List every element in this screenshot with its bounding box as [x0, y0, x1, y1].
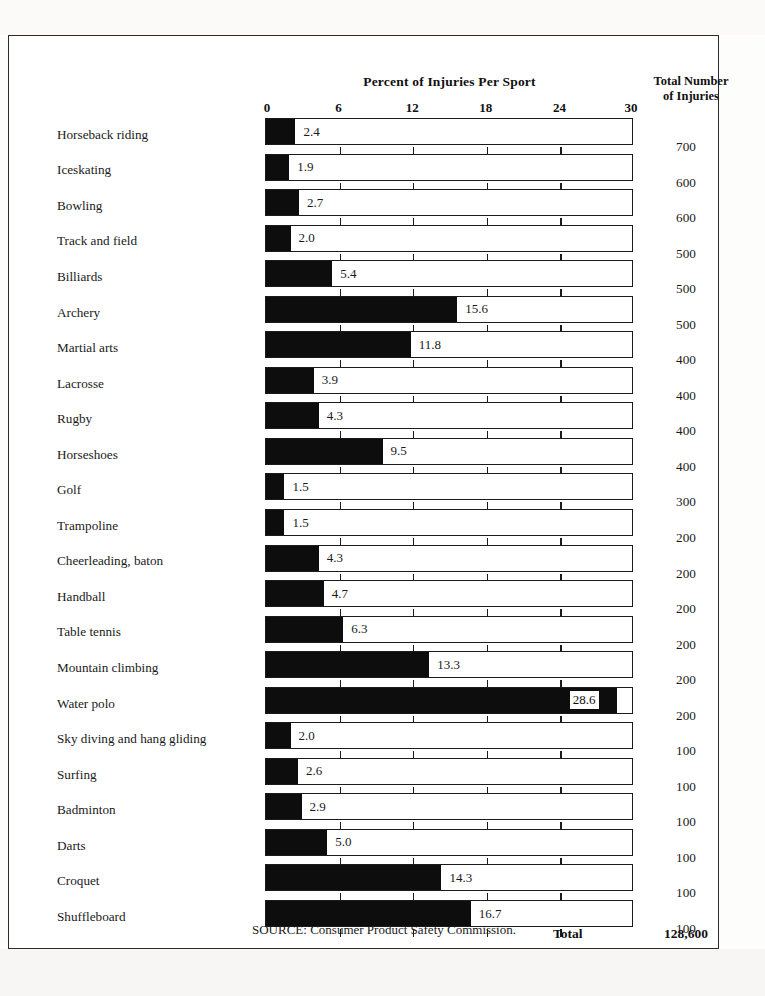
bar-track: 1.5 [265, 509, 633, 536]
bar-fill [266, 226, 291, 251]
bar-value-label: 2.9 [310, 799, 326, 815]
bar-track: 4.7 [265, 580, 633, 607]
bar-fill [266, 439, 383, 464]
category-label: Lacrosse [57, 376, 104, 392]
axis-tick-label-18: 18 [479, 100, 492, 116]
bar-fill [266, 581, 324, 606]
chart-row: Handball4.7200 [0, 579, 765, 615]
category-label: Billiards [57, 269, 102, 285]
chart-row: Surfing2.6100 [0, 757, 765, 793]
bar-track: 1.5 [265, 473, 633, 500]
chart-row: Rugby4.3400 [0, 401, 765, 437]
bar-value-label: 6.3 [351, 621, 367, 637]
bar-fill [266, 794, 302, 819]
category-label: Rugby [57, 411, 92, 427]
chart-row: Darts5.0100 [0, 828, 765, 864]
bar-value-label: 4.3 [327, 408, 343, 424]
bar-value-label: 5.0 [335, 834, 351, 850]
bar-value-label: 1.5 [292, 515, 308, 531]
category-label: Water polo [57, 696, 115, 712]
total-value: 128,600 [636, 926, 736, 942]
axis-tick-label-24: 24 [553, 100, 566, 116]
bar-track: 5.0 [265, 829, 633, 856]
bar-fill [266, 119, 295, 144]
bar-track: 11.8 [265, 331, 633, 358]
bar-fill [266, 368, 314, 393]
bar-track: 6.3 [265, 616, 633, 643]
bar-track: 2.0 [265, 225, 633, 252]
totals-column-header: Total Number of Injuries [636, 74, 746, 104]
chart-row: Lacrosse3.9400 [0, 366, 765, 402]
category-label: Trampoline [57, 518, 118, 534]
page-bottom-margin [0, 949, 765, 996]
bar-fill [266, 155, 289, 180]
bar-track: 2.9 [265, 793, 633, 820]
chart-row: Table tennis6.3200 [0, 615, 765, 651]
category-label: Cheerleading, baton [57, 553, 163, 569]
bar-track: 5.4 [265, 260, 633, 287]
bar-fill [266, 474, 284, 499]
axis-tick-label-12: 12 [406, 100, 419, 116]
bar-value-label: 2.0 [299, 728, 315, 744]
bar-value-label: 14.3 [449, 870, 472, 886]
bar-fill [266, 261, 332, 286]
category-label: Martial arts [57, 340, 118, 356]
bar-value-label: 11.8 [419, 337, 441, 353]
chart-row: Horseshoes9.5400 [0, 437, 765, 473]
chart-row: Bowling2.7600 [0, 188, 765, 224]
bar-value-label: 28.6 [569, 690, 600, 710]
bar-track: 4.3 [265, 545, 633, 572]
source-note: SOURCE: Consumer Product Safety Commissi… [252, 922, 516, 938]
bar-track: 15.6 [265, 296, 633, 323]
bar-track: 13.3 [265, 651, 633, 678]
totals-header-line1: Total Number [654, 74, 729, 88]
chart-row: Martial arts11.8400 [0, 330, 765, 366]
bar-value-label: 15.6 [465, 301, 488, 317]
category-label: Darts [57, 838, 86, 854]
chart-row: Croquet14.3100 [0, 863, 765, 899]
bar-fill [266, 759, 298, 784]
category-label: Horseback riding [57, 127, 148, 143]
category-label: Surfing [57, 767, 97, 783]
bar-fill [266, 403, 319, 428]
bar-fill [266, 688, 617, 713]
category-label: Mountain climbing [57, 660, 158, 676]
bar-value-label: 16.7 [479, 906, 502, 922]
category-label: Croquet [57, 873, 100, 889]
axis-tick-label-30: 30 [625, 100, 638, 116]
bar-value-label: 2.7 [307, 195, 323, 211]
bar-fill [266, 546, 319, 571]
bar-fill [266, 865, 441, 890]
chart-row: Golf1.5300 [0, 472, 765, 508]
bar-value-label: 5.4 [340, 266, 356, 282]
bar-fill [266, 723, 291, 748]
chart-row: Trampoline1.5200 [0, 508, 765, 544]
bar-track: 9.5 [265, 438, 633, 465]
chart-row: Archery15.6500 [0, 295, 765, 331]
bar-value-label: 9.5 [391, 443, 407, 459]
totals-header-line2: of Injuries [636, 89, 746, 104]
category-label: Sky diving and hang gliding [57, 731, 206, 747]
bar-track: 4.3 [265, 402, 633, 429]
chart-row: Cheerleading, baton4.3200 [0, 544, 765, 580]
bar-track: 2.6 [265, 758, 633, 785]
category-label: Golf [57, 482, 81, 498]
category-label: Iceskating [57, 162, 111, 178]
bar-fill [266, 830, 327, 855]
bar-value-label: 4.7 [332, 586, 348, 602]
bar-value-label: 2.4 [303, 124, 319, 140]
category-label: Badminton [57, 802, 116, 818]
total-label: Total [553, 926, 583, 942]
bar-track: 2.7 [265, 189, 633, 216]
bar-value-label: 1.5 [292, 479, 308, 495]
chart-title: Percent of Injuries Per Sport [262, 74, 637, 90]
category-label: Track and field [57, 233, 137, 249]
chart-rows: Horseback riding2.4700Iceskating1.9600Bo… [0, 117, 765, 935]
bar-track: 2.4 [265, 118, 633, 145]
scanned-page: Percent of Injuries Per Sport Total Numb… [0, 0, 765, 996]
category-label: Archery [57, 305, 100, 321]
bar-track: 28.6 [265, 687, 633, 714]
bar-value-label: 4.3 [327, 550, 343, 566]
chart-row: Horseback riding2.4700 [0, 117, 765, 153]
bar-track: 14.3 [265, 864, 633, 891]
